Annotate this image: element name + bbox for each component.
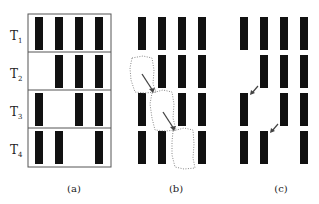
bar-b-t4-c2 xyxy=(158,131,166,164)
arrow-icon xyxy=(142,74,153,91)
bar-a-t1-c4 xyxy=(95,17,103,50)
bar-c-t3-c4 xyxy=(300,93,308,126)
bar-b-t3-c4 xyxy=(198,93,206,126)
caption-a: (a) xyxy=(67,183,81,194)
row-label-t1: T1 xyxy=(10,29,22,45)
arrow-icon xyxy=(163,112,174,129)
diagram-figure: T1 T2 T3 T4 (a) (b) (c) xyxy=(0,0,319,204)
bar-a-t1-c2 xyxy=(55,17,63,50)
dotted-region-2 xyxy=(150,90,176,131)
bar-a-t1-c1 xyxy=(35,17,43,50)
bar-a-t3-c3 xyxy=(75,93,83,126)
bar-a-t3-c4 xyxy=(95,93,103,126)
bar-c-t2-c3 xyxy=(280,55,288,88)
row-label-t3: T3 xyxy=(10,105,22,121)
bar-a-t2-c3 xyxy=(75,55,83,88)
bar-a-t4-c2 xyxy=(55,131,63,164)
caption-b: (b) xyxy=(169,183,183,194)
row-labels: T1 T2 T3 T4 xyxy=(10,29,23,159)
bar-b-t1-c3 xyxy=(178,17,186,50)
dotted-region-3 xyxy=(172,128,195,169)
bar-c-t2-c4 xyxy=(300,55,308,88)
bar-a-t3-c1 xyxy=(35,93,43,126)
bar-b-t1-c4 xyxy=(198,17,206,50)
bar-a-t4-c1 xyxy=(35,131,43,164)
bar-a-t1-c3 xyxy=(75,17,83,50)
arrowhead-icon xyxy=(149,88,155,93)
bar-c-t4-c2 xyxy=(260,131,268,164)
bar-c-t1-c4 xyxy=(300,17,308,50)
bar-b-t1-c1 xyxy=(138,17,146,50)
row-label-t2: T2 xyxy=(10,67,22,83)
bar-b-t2-c4 xyxy=(198,55,206,88)
bar-c-t4-c4 xyxy=(300,131,308,164)
row-label-t4: T4 xyxy=(10,143,23,159)
bar-b-t3-c3 xyxy=(178,93,186,126)
bar-c-t1-c2 xyxy=(260,17,268,50)
bar-a-t4-c4 xyxy=(95,131,103,164)
bar-c-t3-c3 xyxy=(280,93,288,126)
bar-a-t2-c2 xyxy=(55,55,63,88)
panel-c-annotations xyxy=(250,86,278,133)
bar-c-t4-c1 xyxy=(240,131,248,164)
bar-b-t1-c2 xyxy=(158,17,166,50)
bar-b-t2-c2 xyxy=(158,55,166,88)
caption-c: (c) xyxy=(274,183,288,194)
bar-c-t1-c3 xyxy=(280,17,288,50)
bar-c-t1-c1 xyxy=(240,17,248,50)
bar-b-t4-c4 xyxy=(198,131,206,164)
bar-b-t2-c3 xyxy=(178,55,186,88)
bar-a-t2-c4 xyxy=(95,55,103,88)
bar-c-t2-c2 xyxy=(260,55,268,88)
bar-b-t3-c1 xyxy=(138,93,146,126)
bar-c-t3-c1 xyxy=(240,93,248,126)
bar-b-t4-c1 xyxy=(138,131,146,164)
